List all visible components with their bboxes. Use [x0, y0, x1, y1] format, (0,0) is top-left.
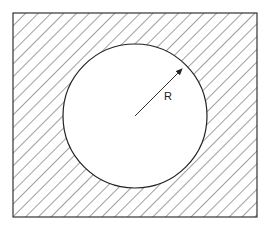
diagram-canvas: R — [0, 0, 271, 230]
radius-label: R — [164, 90, 172, 102]
